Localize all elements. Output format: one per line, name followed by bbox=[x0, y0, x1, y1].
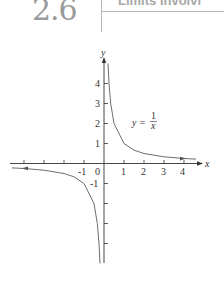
svg-text:x: x bbox=[150, 120, 156, 131]
x-tick-label: 1 bbox=[121, 166, 126, 177]
reciprocal-function-graph: -1 0 1 2 3 4 4 3 2 1 -1 y x y = 1 x bbox=[0, 0, 224, 281]
curve-negative-branch bbox=[12, 168, 100, 264]
curve-left-arrow-icon bbox=[22, 167, 28, 171]
svg-text:y =: y = bbox=[131, 117, 146, 128]
x-tick-label: 2 bbox=[141, 166, 146, 177]
x-axis-arrow-icon bbox=[197, 161, 203, 165]
y-tick-label: 2 bbox=[95, 118, 100, 129]
x-tick-label: 0 bbox=[95, 166, 100, 177]
y-axis-label: y bbox=[100, 47, 106, 58]
y-tick-label: 4 bbox=[95, 78, 100, 89]
y-tick-label: 3 bbox=[95, 98, 100, 109]
curve-right-arrow-icon bbox=[180, 157, 186, 161]
x-tick-label: 3 bbox=[161, 166, 166, 177]
x-axis-label: x bbox=[204, 158, 210, 169]
y-tick-label: 1 bbox=[95, 138, 100, 149]
x-tick-label: 4 bbox=[180, 166, 185, 177]
y-tick-label: -1 bbox=[90, 178, 98, 189]
x-tick-label: -1 bbox=[78, 166, 86, 177]
equation-label: y = 1 x bbox=[131, 110, 157, 131]
